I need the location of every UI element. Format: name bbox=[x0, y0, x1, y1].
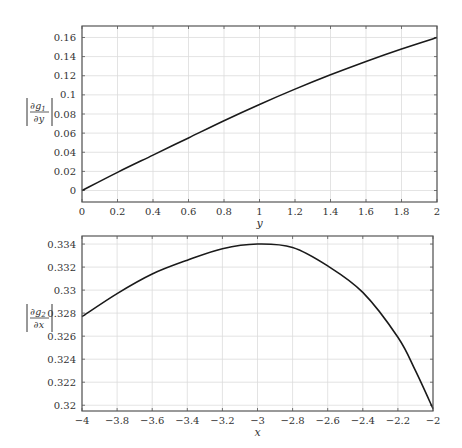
y-tick-label: 0 bbox=[70, 185, 76, 196]
y-tick-label: 0.32 bbox=[54, 400, 76, 411]
svg-text:∂y: ∂y bbox=[34, 113, 45, 124]
x-tick-label: 2 bbox=[434, 206, 440, 217]
y-tick-label: 0.12 bbox=[54, 70, 76, 81]
svg-text:∂x: ∂x bbox=[34, 319, 45, 330]
y-tick-label: 0.322 bbox=[47, 377, 76, 388]
y-tick-label: 0.14 bbox=[54, 51, 76, 62]
x-tick-label: −4 bbox=[75, 415, 90, 426]
svg-text:∂g1: ∂g1 bbox=[30, 100, 45, 113]
x-tick-label: −2.6 bbox=[316, 415, 340, 426]
x-tick-label: 0.2 bbox=[110, 206, 126, 217]
bottom-plot: −4−3.8−3.6−3.4−3.2−3−2.8−2.6−2.4−2.2−20.… bbox=[27, 236, 440, 439]
x-tick-label: 0.4 bbox=[145, 206, 161, 217]
x-tick-label: 1.8 bbox=[394, 206, 410, 217]
y-tick-label: 0.334 bbox=[47, 239, 76, 250]
y-tick-label: 0.04 bbox=[54, 147, 76, 158]
x-axis-label: x bbox=[254, 426, 261, 439]
y-tick-label: 0.332 bbox=[47, 262, 76, 273]
x-tick-label: −3.8 bbox=[105, 415, 129, 426]
y-tick-label: 0.02 bbox=[54, 166, 76, 177]
y-tick-label: 0.08 bbox=[54, 109, 76, 120]
x-tick-label: −2.8 bbox=[280, 415, 304, 426]
x-tick-label: 0.6 bbox=[181, 206, 197, 217]
x-tick-label: −3.6 bbox=[140, 415, 164, 426]
y-tick-label: 0.16 bbox=[54, 32, 76, 43]
y-tick-label: 0.1 bbox=[60, 89, 76, 100]
x-tick-label: 1.6 bbox=[358, 206, 374, 217]
y-axis-label: ∂g1∂y bbox=[27, 98, 52, 126]
x-tick-label: 1.4 bbox=[323, 206, 339, 217]
x-tick-label: −2.4 bbox=[351, 415, 375, 426]
x-tick-label: 0 bbox=[79, 206, 85, 217]
y-tick-label: 0.06 bbox=[54, 128, 76, 139]
x-tick-label: −3.4 bbox=[175, 415, 199, 426]
x-axis-label: y bbox=[255, 217, 263, 230]
x-tick-label: −3 bbox=[250, 415, 265, 426]
x-tick-label: −3.2 bbox=[210, 415, 234, 426]
x-tick-label: −2 bbox=[426, 415, 441, 426]
y-tick-label: 0.326 bbox=[47, 331, 76, 342]
y-tick-label: 0.33 bbox=[54, 285, 76, 296]
x-tick-label: 1.2 bbox=[287, 206, 303, 217]
x-tick-label: −2.2 bbox=[386, 415, 410, 426]
x-tick-label: 1 bbox=[256, 206, 262, 217]
svg-text:∂g2: ∂g2 bbox=[30, 306, 46, 319]
top-plot: 00.20.40.60.811.21.41.61.8200.020.040.06… bbox=[27, 26, 440, 230]
figure: 00.20.40.60.811.21.41.61.8200.020.040.06… bbox=[0, 0, 462, 448]
x-tick-label: 0.8 bbox=[216, 206, 232, 217]
y-tick-label: 0.324 bbox=[47, 354, 76, 365]
